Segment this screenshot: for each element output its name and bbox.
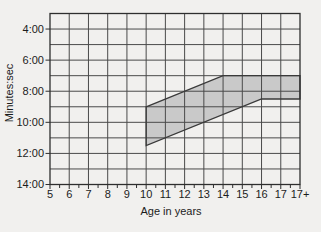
x-tick-label: 10 bbox=[140, 188, 152, 200]
y-tick-label: 14:00 bbox=[16, 178, 44, 190]
y-tick-label: 6:00 bbox=[23, 54, 44, 66]
y-tick-label: 12:00 bbox=[16, 147, 44, 159]
y-tick-label: 10:00 bbox=[16, 116, 44, 128]
y-tick-label: 8:00 bbox=[23, 85, 44, 97]
x-tick-label: 12 bbox=[178, 188, 190, 200]
x-tick-label: 5 bbox=[47, 188, 53, 200]
x-tick-label: 9 bbox=[124, 188, 130, 200]
x-tick-label: 16 bbox=[255, 188, 267, 200]
x-tick-label: 13 bbox=[198, 188, 210, 200]
plot-area: 56789101112131415161717+4:006:008:0010:0… bbox=[0, 0, 321, 232]
x-tick-label: 14 bbox=[217, 188, 229, 200]
x-tick-label: 17 bbox=[275, 188, 287, 200]
y-axis-title: Minutes:sec bbox=[3, 64, 15, 123]
y-tick-label: 4:00 bbox=[23, 23, 44, 35]
x-tick-label: 15 bbox=[236, 188, 248, 200]
x-tick-label: 11 bbox=[160, 188, 171, 200]
run-time-by-age-chart: 56789101112131415161717+4:006:008:0010:0… bbox=[0, 0, 321, 232]
x-tick-label: 8 bbox=[105, 188, 111, 200]
x-axis-title: Age in years bbox=[140, 205, 201, 217]
x-tick-label: 6 bbox=[66, 188, 72, 200]
x-tick-label: 7 bbox=[85, 188, 91, 200]
x-tick-label: 17+ bbox=[291, 188, 310, 200]
